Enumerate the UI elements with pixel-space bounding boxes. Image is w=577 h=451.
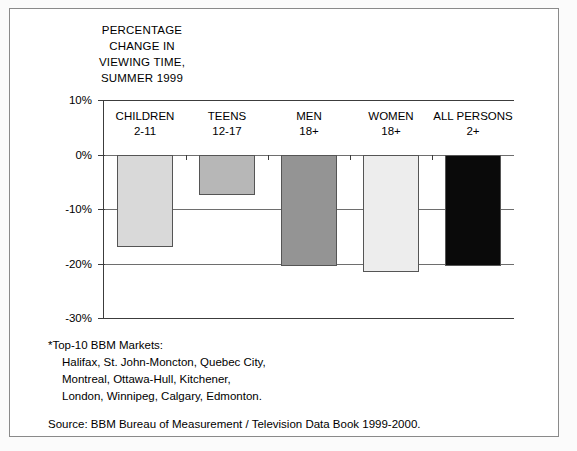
y-axis-label: -10%	[65, 203, 92, 215]
category-label-line: 18+	[268, 124, 350, 139]
category-label-1: CHILDREN2-11	[104, 109, 186, 139]
category-label-line: 18+	[350, 124, 432, 139]
category-label-line: TEENS	[186, 109, 268, 124]
category-label-2: TEENS12-17	[186, 109, 268, 139]
footnote-line-3: Montreal, Ottawa-Hull, Kitchener,	[48, 371, 266, 388]
gridline--30%	[104, 318, 514, 319]
y-axis-tick	[98, 100, 105, 101]
bar-chart: 10%0%-10%-20%-30%CHILDREN2-11TEENS12-17M…	[47, 100, 514, 320]
bar-4	[363, 155, 419, 272]
plot-area: 10%0%-10%-20%-30%CHILDREN2-11TEENS12-17M…	[104, 100, 514, 318]
figure-canvas: PERCENTAGE CHANGE IN VIEWING TIME, SUMME…	[0, 0, 577, 451]
footnote-block: *Top-10 BBM Markets: Halifax, St. John-M…	[48, 337, 266, 405]
x-axis-tick	[432, 155, 433, 160]
gridline-10%	[104, 100, 514, 101]
category-label-line: WOMEN	[350, 109, 432, 124]
x-axis-tick	[350, 155, 351, 160]
y-axis-tick	[98, 209, 105, 210]
category-label-3: MEN18+	[268, 109, 350, 139]
chart-title: PERCENTAGE CHANGE IN VIEWING TIME, SUMME…	[47, 22, 237, 86]
footnote-line-1: *Top-10 BBM Markets:	[48, 337, 266, 354]
category-label-line: 12-17	[186, 124, 268, 139]
chart-title-line-4: SUMMER 1999	[47, 70, 237, 86]
bar-5	[445, 155, 501, 267]
category-label-line: ALL PERSONS	[432, 109, 514, 124]
y-axis-label: 0%	[75, 149, 92, 161]
y-axis-label: -20%	[65, 258, 92, 270]
y-axis-label: 10%	[69, 94, 92, 106]
y-axis-tick	[98, 318, 105, 319]
category-label-line: MEN	[268, 109, 350, 124]
bar-2	[199, 155, 255, 196]
category-label-line: CHILDREN	[104, 109, 186, 124]
category-label-line: 2+	[432, 124, 514, 139]
chart-title-line-1: PERCENTAGE	[47, 22, 237, 38]
chart-title-line-3: VIEWING TIME,	[47, 54, 237, 70]
source-note: Source: BBM Bureau of Measurement / Tele…	[48, 418, 420, 430]
footnote-line-4: London, Winnipeg, Calgary, Edmonton.	[48, 388, 266, 405]
y-axis-tick	[98, 264, 105, 265]
bar-1	[117, 155, 173, 248]
footnote-line-2: Halifax, St. John-Moncton, Quebec City,	[48, 354, 266, 371]
chart-title-line-2: CHANGE IN	[47, 38, 237, 54]
x-axis-tick	[268, 155, 269, 160]
y-axis-label: -30%	[65, 312, 92, 324]
x-axis-tick	[186, 155, 187, 160]
y-axis-tick	[98, 155, 105, 156]
category-label-4: WOMEN18+	[350, 109, 432, 139]
bar-3	[281, 155, 337, 267]
category-label-5: ALL PERSONS2+	[432, 109, 514, 139]
category-label-line: 2-11	[104, 124, 186, 139]
